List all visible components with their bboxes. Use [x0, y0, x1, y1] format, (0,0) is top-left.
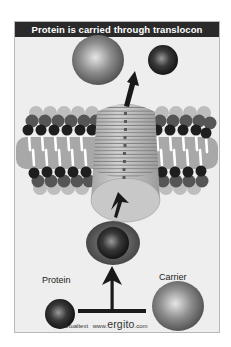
copyright-text: ©virtualtext	[58, 323, 88, 329]
site-prefix: www.	[93, 323, 107, 329]
assembly-arrow	[78, 266, 146, 313]
carrier-sphere	[152, 281, 204, 331]
carrier-label: Carrier	[159, 272, 187, 282]
site-name: ergito	[107, 318, 134, 330]
released-carrier-sphere	[72, 35, 124, 85]
released-protein-sphere	[148, 45, 178, 75]
carrier-protein-complex	[86, 221, 140, 265]
copyright-footer: ©virtualtext www.ergito.com	[58, 318, 148, 330]
protein-label: Protein	[42, 275, 71, 285]
site-suffix: .com	[135, 323, 148, 329]
translocon-channel	[91, 104, 160, 222]
translocon-illustration	[0, 0, 231, 347]
exit-arrow	[124, 71, 139, 107]
